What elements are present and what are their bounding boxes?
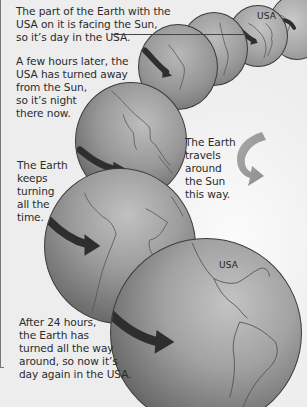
frame-border <box>0 0 1 368</box>
usa-label: USA <box>257 11 276 21</box>
americas-outline-icon <box>111 239 301 407</box>
frame-border-tick <box>0 367 4 368</box>
caption-day-facing: The part of the Earth with the USA on it… <box>16 5 176 44</box>
caption-night: A few hours later, the USA has turned aw… <box>16 55 136 120</box>
caption-keeps-turning: The Earth keeps turning all the time. <box>17 159 77 224</box>
leader-line <box>112 34 247 35</box>
caption-after-24-hours: After 24 hours, the Earth has turned all… <box>19 316 139 381</box>
usa-label: USA <box>219 260 238 270</box>
caption-travels-around: The Earth travels around the Sun this wa… <box>185 136 245 201</box>
